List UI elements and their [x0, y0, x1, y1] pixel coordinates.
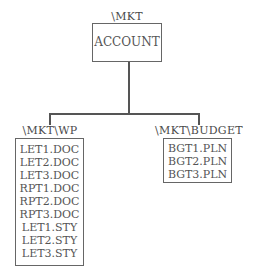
file-item: BGT2.PLN [164, 155, 231, 168]
root-directory-box: ACCOUNT [92, 23, 162, 62]
root-directory-label: \MKT [92, 10, 162, 23]
file-item: LET2.DOC [16, 156, 83, 169]
wp-directory-label: \MKT\WP [10, 124, 90, 137]
file-item: LET3.STY [16, 247, 83, 260]
file-item: LET1.DOC [16, 143, 83, 156]
file-item: BGT3.PLN [164, 168, 231, 181]
file-item: LET3.DOC [16, 169, 83, 182]
file-item: ACCOUNT [93, 24, 161, 60]
connector-horizontal [49, 113, 200, 115]
budget-directory-label: \MKT\BUDGET [148, 124, 250, 137]
file-item: BGT1.PLN [164, 142, 231, 155]
wp-directory-box: LET1.DOC LET2.DOC LET3.DOC RPT1.DOC RPT2… [15, 138, 84, 266]
file-item: RPT1.DOC [16, 182, 83, 195]
file-item: LET2.STY [16, 234, 83, 247]
file-item: RPT2.DOC [16, 195, 83, 208]
file-item: RPT3.DOC [16, 208, 83, 221]
budget-directory-box: BGT1.PLN BGT2.PLN BGT3.PLN [163, 138, 232, 183]
file-item: LET1.STY [16, 221, 83, 234]
connector-stem [128, 62, 130, 114]
